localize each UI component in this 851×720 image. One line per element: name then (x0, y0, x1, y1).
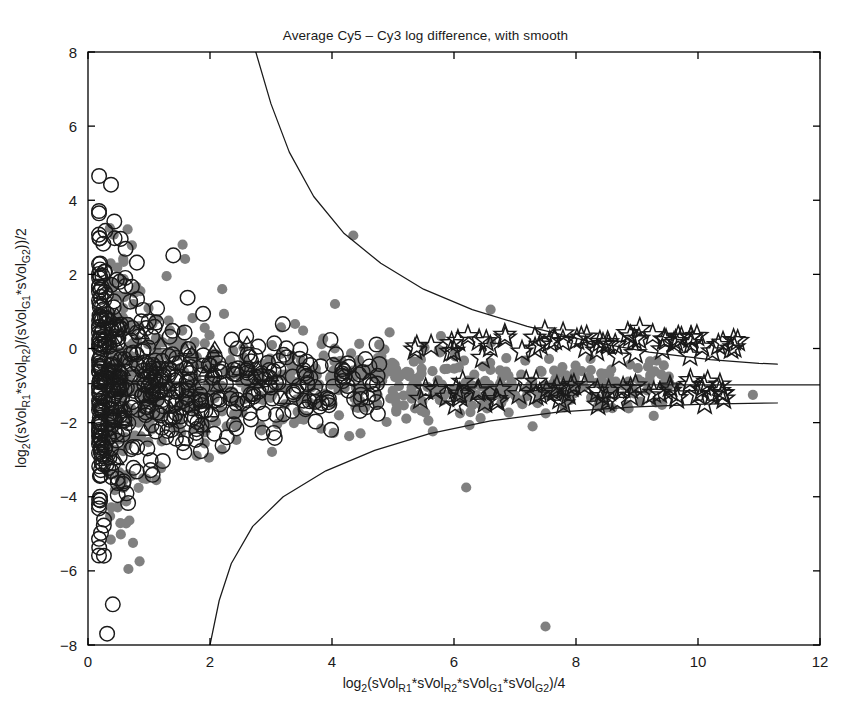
y-tick-label: 2 (69, 266, 77, 283)
y-tick-label: 4 (69, 192, 77, 209)
y-tick-label: 0 (69, 340, 77, 357)
y-tick-label: 6 (69, 118, 77, 135)
y-tick-label: −6 (60, 562, 77, 579)
y-tick-label: −2 (60, 414, 77, 431)
x-axis-title: log2(sVolR1*sVolR2*sVolG1*sVolG2)/4 (343, 675, 566, 694)
y-tick-label: −8 (60, 637, 77, 654)
x-tick-label: 2 (206, 653, 214, 670)
figure-canvas: Average Cy5 – Cy3 log difference, with s… (0, 0, 851, 720)
x-tick-label: 12 (812, 653, 829, 670)
x-tick-label: 10 (690, 653, 707, 670)
scatter-plot: 024681012 −8−6−4−202468 log2(sVolR1*sVol… (0, 0, 851, 720)
y-tick-label: −4 (60, 488, 77, 505)
x-tick-label: 0 (84, 653, 92, 670)
y-axis-tick-labels: −8−6−4−202468 (60, 44, 77, 654)
y-axis-title: log2((sVolR1*sVolR2)/(sVolG1*sVolG2))/2 (13, 228, 32, 468)
x-tick-label: 4 (328, 653, 336, 670)
x-tick-label: 6 (450, 653, 458, 670)
x-axis-tick-labels: 024681012 (84, 653, 829, 670)
y-tick-label: 8 (69, 44, 77, 61)
x-tick-label: 8 (572, 653, 580, 670)
